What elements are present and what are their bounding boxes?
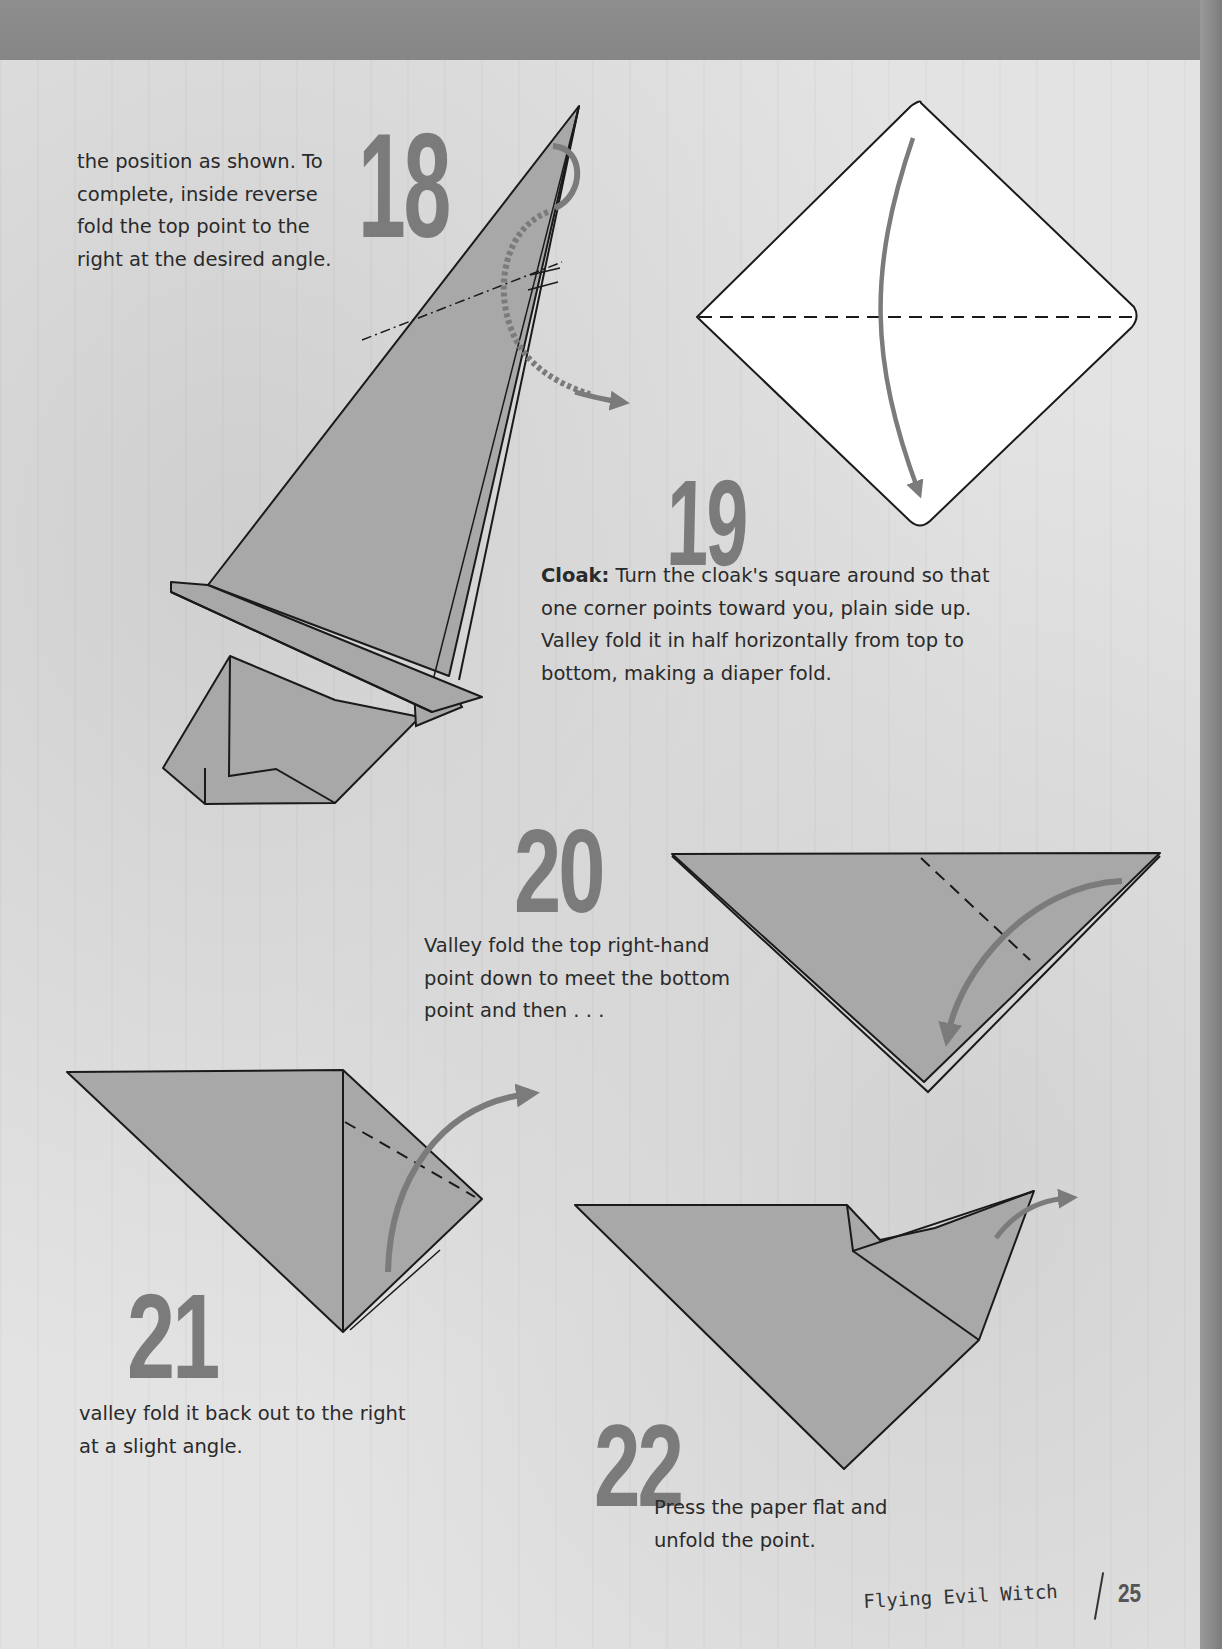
text-line: Press the paper flat and <box>654 1492 887 1525</box>
text-line: Cloak: Turn the cloak's square around so… <box>541 560 990 593</box>
text-line: Valley fold the top right-hand <box>424 930 730 963</box>
step-20-diagram <box>672 853 1160 1092</box>
step-20-instructions: Valley fold the top right-hand point dow… <box>424 930 730 1028</box>
step-number-21: 21 <box>127 1276 217 1396</box>
text-line: unfold the point. <box>654 1525 887 1558</box>
text-line: valley fold it back out to the right <box>79 1398 406 1431</box>
step-22-instructions: Press the paper flat and unfold the poin… <box>654 1492 887 1557</box>
step-18-instructions: the position as shown. To complete, insi… <box>77 146 331 276</box>
text-line: point down to meet the bottom <box>424 963 730 996</box>
text-line: point and then . . . <box>424 995 730 1028</box>
page-number: 25 <box>1118 1578 1141 1609</box>
paper-square <box>697 102 1137 526</box>
text-line: bottom, making a diaper fold. <box>541 658 990 691</box>
text-line: one corner points toward you, plain side… <box>541 593 990 626</box>
step-number-20: 20 <box>514 812 603 930</box>
text-line: right at the desired angle. <box>77 244 331 277</box>
text-line: Valley fold it in half horizontally from… <box>541 625 990 658</box>
text-line-rest: Turn the cloak's square around so that <box>616 564 990 587</box>
text-line: complete, inside reverse <box>77 179 331 212</box>
step-19-instructions: Cloak: Turn the cloak's square around so… <box>541 560 990 690</box>
step-19-diagram <box>697 102 1137 526</box>
cloak-lead: Cloak: <box>541 564 609 587</box>
step-21-instructions: valley fold it back out to the right at … <box>79 1398 406 1463</box>
step-number-18: 18 <box>358 112 449 260</box>
text-line: the position as shown. To <box>77 146 331 179</box>
text-line: fold the top point to the <box>77 211 331 244</box>
text-line: at a slight angle. <box>79 1431 406 1464</box>
reverse-fold-arrow-head <box>575 392 620 402</box>
